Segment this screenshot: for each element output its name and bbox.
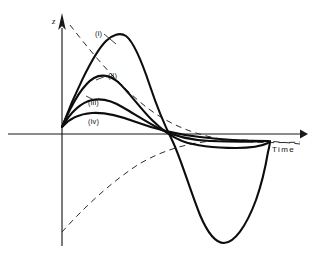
curve-label-iii: (iii) xyxy=(88,99,99,107)
x-axis-arrowhead xyxy=(300,130,308,139)
response-curves-group xyxy=(62,34,270,243)
lower-envelope-curve xyxy=(62,140,300,232)
y-axis-label: z xyxy=(52,17,55,26)
chart-figure: z Time (i) (ii) (iii) (iv) xyxy=(0,0,321,266)
y-axis-arrowhead xyxy=(58,13,66,30)
curve-label-ii: (ii) xyxy=(108,72,117,80)
response-curve-ii xyxy=(62,76,268,148)
chart-canvas xyxy=(0,0,321,266)
leader-lines-group xyxy=(86,34,116,100)
curve-label-iv: (iv) xyxy=(88,118,99,126)
response-curve-i xyxy=(62,34,270,243)
x-axis-label: Time xyxy=(272,146,295,154)
envelope-curves-group xyxy=(62,25,300,232)
curve-label-i: (i) xyxy=(95,30,102,38)
